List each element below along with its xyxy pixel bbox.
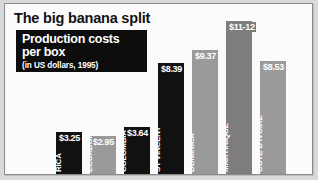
page-title: The big banana split — [14, 10, 150, 26]
chart-frame: COSTARICA$3.25ECUADOR$2.95COLOMBIA$3.64S… — [4, 3, 313, 175]
bar-group: COLOMBIA$3.64 — [124, 127, 150, 175]
bar-category-label: MARTINIQUE — [226, 123, 230, 172]
bar-category-label: ST VINCENT — [158, 126, 162, 172]
bar-group: MARTINIQUE$11-12 — [226, 21, 252, 175]
bar-group: COSTARICA$3.25 — [56, 132, 82, 175]
bar-group: CÔTE D'IVOIRE$8.53 — [260, 61, 286, 175]
caption-box: Production costs per box (in US dollars,… — [16, 30, 147, 72]
bar: MARTINIQUE — [226, 21, 252, 175]
bar-group: ST VINCENT$8.39 — [158, 63, 184, 175]
bar-group: ECUADOR$2.95 — [90, 136, 116, 175]
bar-value-label: $8.53 — [262, 62, 285, 72]
bar-value-label: $3.64 — [126, 128, 149, 138]
bar-value-label: $2.95 — [92, 137, 115, 147]
bar-value-label: $3.25 — [58, 133, 81, 143]
bar: DOMINICA — [192, 50, 218, 175]
bar-group: DOMINICA$9.37 — [192, 50, 218, 175]
bar-value-label: $11-12 — [228, 22, 256, 32]
chart-figure: COSTARICA$3.25ECUADOR$2.95COLOMBIA$3.64S… — [0, 0, 318, 180]
bar-value-label: $8.39 — [160, 64, 183, 74]
bar-value-label: $9.37 — [194, 51, 217, 61]
bar: CÔTE D'IVOIRE — [260, 61, 286, 175]
caption-line-2: per box — [22, 46, 147, 59]
caption-subtitle: (in US dollars, 1995) — [22, 60, 147, 71]
bar-category-label: COSTARICA — [56, 146, 63, 172]
bar-category-label: CÔTE D'IVOIRE — [260, 115, 264, 172]
bar-category-label: DOMINICA — [192, 133, 196, 172]
bar: ST VINCENT — [158, 63, 184, 175]
